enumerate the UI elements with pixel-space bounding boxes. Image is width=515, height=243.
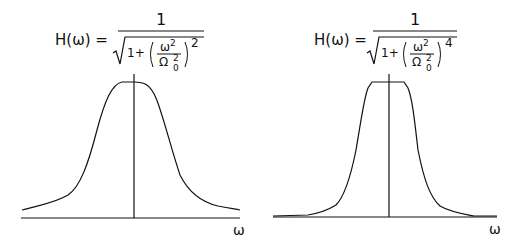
response-curve xyxy=(273,82,497,216)
formula-frac-den: Ω xyxy=(412,55,421,69)
formula-frac-den-sub: 0 xyxy=(426,63,432,73)
formula-frac-den-sub: 0 xyxy=(173,63,179,73)
formula-frac-num: ω2 xyxy=(413,38,429,54)
left-formula: H(ω) = 1 1+ ω2 Ω 2 0 2 xyxy=(0,0,258,80)
formula-frac-den-exp: 2 xyxy=(426,53,432,63)
right-panel: H(ω) = 1 1+ ω2 Ω 2 0 4 ω xyxy=(258,0,515,243)
formula-one-plus: 1+ xyxy=(381,46,399,60)
formula-frac-den: Ω xyxy=(159,55,168,69)
formula-lhs: H(ω) = xyxy=(314,31,367,49)
formula-outer-exp: 2 xyxy=(191,36,199,50)
formula-one-plus: 1+ xyxy=(127,46,145,60)
x-axis-label: ω xyxy=(233,222,245,238)
formula-numerator: 1 xyxy=(156,10,166,29)
formula-numerator: 1 xyxy=(410,10,420,29)
formula-frac-num: ω2 xyxy=(160,38,176,54)
response-curve xyxy=(22,82,240,210)
x-axis-label: ω xyxy=(489,221,501,237)
right-formula: H(ω) = 1 1+ ω2 Ω 2 0 4 xyxy=(258,0,515,80)
left-panel: H(ω) = 1 1+ ω2 Ω 2 0 2 ω xyxy=(0,0,258,243)
formula-frac-den-exp: 2 xyxy=(173,53,179,63)
formula-outer-exp: 4 xyxy=(445,36,453,50)
formula-lhs: H(ω) = xyxy=(55,31,108,49)
